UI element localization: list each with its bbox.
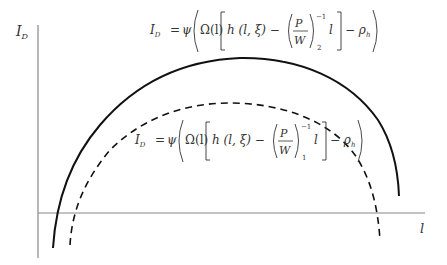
x-axis-label: l [420, 221, 424, 236]
svg-text:W: W [294, 34, 307, 47]
svg-text:−1: −1 [316, 13, 326, 21]
solid-curve [53, 58, 399, 248]
diagram-canvas: ID l ID = ψ Ω(l) h (l, ξ) − P W −1 2 l −… [0, 0, 447, 265]
svg-text:− ρh: − ρh [345, 23, 370, 39]
equation-curve-1: ID = ψ Ω(l) h (l, ξ) − P W −1 1 l − ρh [134, 120, 362, 162]
svg-text:− ρh: − ρh [330, 133, 355, 149]
svg-text:=: = [170, 23, 180, 37]
svg-text:P: P [279, 127, 288, 140]
svg-text:=: = [155, 133, 165, 147]
svg-text:1: 1 [302, 154, 306, 162]
svg-text:2: 2 [317, 44, 321, 52]
svg-text:W: W [279, 144, 292, 157]
svg-text:ID: ID [149, 23, 161, 39]
svg-text:h (l, ξ) −: h (l, ξ) − [212, 133, 265, 147]
svg-text:ψ: ψ [182, 23, 192, 37]
equation-curve-2: ID = ψ Ω(l) h (l, ξ) − P W −1 2 l − ρh [149, 10, 377, 52]
svg-text:−1: −1 [301, 123, 311, 131]
svg-text:ψ: ψ [167, 133, 177, 147]
svg-text:l: l [329, 23, 333, 37]
svg-text:Ω(l): Ω(l) [200, 23, 223, 37]
y-axis-label: ID [15, 23, 29, 41]
svg-text:l: l [314, 133, 318, 147]
svg-text:h (l, ξ) −: h (l, ξ) − [227, 23, 280, 37]
svg-text:ID: ID [134, 133, 146, 149]
dashed-curve [70, 103, 380, 245]
svg-text:P: P [294, 17, 303, 30]
svg-text:Ω(l): Ω(l) [185, 133, 208, 147]
